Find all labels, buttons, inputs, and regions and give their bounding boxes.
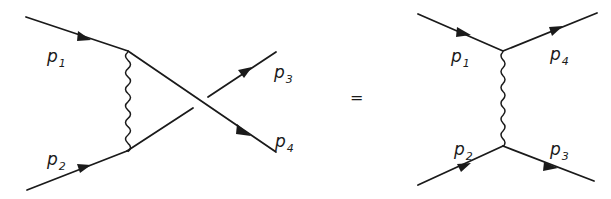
p3-line-lower-segment [127,108,193,151]
right-label-p3: p3 [549,139,569,163]
right-photon-wavy-line [501,52,505,147]
right-label-p2: p2 [453,139,473,163]
p1-incoming-line [26,17,128,51]
p2-incoming-line [27,151,127,190]
p4-arrow-icon [236,124,251,136]
label-p4: p4 [274,131,294,155]
left-diagram: p1 p2 p3 p4 [26,17,294,190]
equals-sign: = [350,88,363,107]
right-p2-arrow-icon [457,163,471,172]
right-p4-arrow-icon [549,26,563,36]
label-p1: p1 [46,46,66,70]
right-label-p1: p1 [450,46,470,70]
right-label-p4: p4 [549,44,569,68]
p1-arrow-icon [77,31,91,41]
right-diagram: p1 p4 p2 p3 [418,13,597,185]
label-p3: p3 [273,62,293,86]
right-p3-outgoing-line [503,146,594,181]
feynman-equation: p1 p2 p3 p4 = p1 p4 p2 p3 [0,0,611,199]
label-p2: p2 [46,149,66,173]
p2-arrow-icon [77,164,91,173]
photon-wavy-line [126,52,131,152]
